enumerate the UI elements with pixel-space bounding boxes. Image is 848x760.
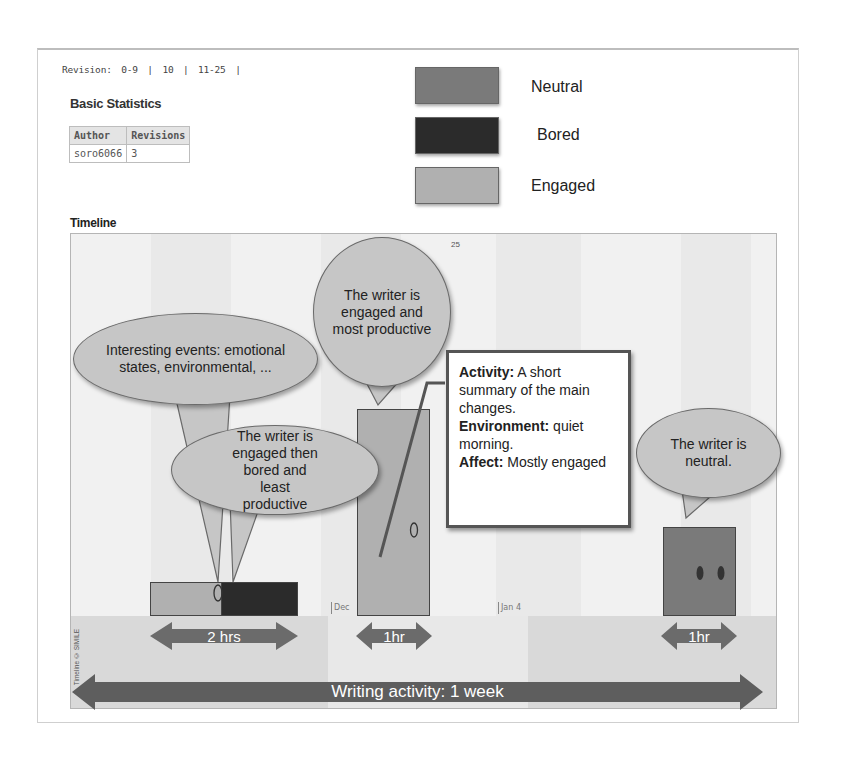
tick-jan4: Jan 4	[498, 602, 521, 614]
revision-sep: |	[235, 64, 241, 75]
bubble-neutral: The writer is neutral.	[636, 408, 781, 498]
basic-statistics-heading: Basic Statistics	[70, 96, 161, 111]
legend-swatch-engaged	[415, 167, 499, 204]
revision-nav: Revision: 0-9 | 10 | 11-25 |	[62, 64, 245, 75]
bubble-interesting-events: Interesting events: emotional states, en…	[73, 313, 318, 405]
session-info-box: Activity: A short summary of the main ch…	[446, 350, 631, 528]
revision-label: Revision:	[62, 64, 112, 75]
legend-label-bored: Bored	[537, 126, 580, 144]
duration-label-1hr-b: 1hr	[677, 625, 721, 647]
timeline-stripe	[71, 234, 151, 616]
bubble-engaged-productive: The writer is engaged and most productiv…	[313, 237, 451, 387]
environment-label: Environment:	[459, 418, 549, 434]
session1-bored-bar[interactable]	[221, 582, 298, 616]
legend-label-engaged: Engaged	[531, 177, 595, 195]
col-author: Author	[70, 127, 127, 145]
affect-label: Affect:	[459, 454, 503, 470]
stats-table: Author Revisions soro6066 3	[69, 126, 190, 163]
bubble-engaged-bored: The writer is engaged then bored and lea…	[171, 425, 379, 515]
legend-swatch-neutral	[415, 67, 499, 104]
duration-label-2hrs: 2 hrs	[172, 625, 276, 647]
table-header-row: Author Revisions	[70, 127, 190, 145]
session1-engaged-bar[interactable]	[150, 582, 222, 616]
simile-credit: Timeline © SIMILE	[73, 629, 80, 685]
overall-duration-label: Writing activity: 1 week	[95, 681, 740, 703]
cell-revisions: 3	[127, 145, 190, 163]
legend-swatch-bored	[415, 117, 499, 154]
cell-author: soro6066	[70, 145, 127, 163]
revision-sep: |	[183, 64, 189, 75]
affect-text: Mostly engaged	[503, 454, 606, 470]
session3-neutral-bar[interactable]	[663, 527, 736, 616]
legend-label-neutral: Neutral	[531, 78, 583, 96]
revision-link-10[interactable]: 10	[162, 64, 173, 75]
activity-label: Activity:	[459, 364, 514, 380]
session2-engaged-bar[interactable]	[357, 409, 430, 616]
duration-label-1hr-a: 1hr	[372, 625, 416, 647]
revision-link-0-9[interactable]: 0-9	[121, 64, 138, 75]
tick-dec: Dec	[331, 602, 349, 614]
timeline-heading: Timeline	[70, 216, 116, 230]
revision-sep: |	[147, 64, 153, 75]
table-row: soro6066 3	[70, 145, 190, 163]
col-revisions: Revisions	[127, 127, 190, 145]
timeline-top-tick: 25	[451, 240, 460, 249]
revision-link-11-25[interactable]: 11-25	[198, 64, 226, 75]
